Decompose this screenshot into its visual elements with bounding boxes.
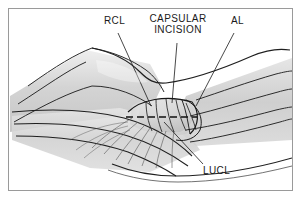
label-lucl: LUCL [203,165,230,176]
illustration-figure: RCL CAPSULAR INCISION AL LUCL [0,0,301,201]
label-capsular: CAPSULAR [148,13,208,24]
label-al: AL [231,15,244,26]
capsular-leader-line [172,43,177,103]
label-incision: INCISION [148,24,208,35]
label-rcl: RCL [104,15,125,26]
